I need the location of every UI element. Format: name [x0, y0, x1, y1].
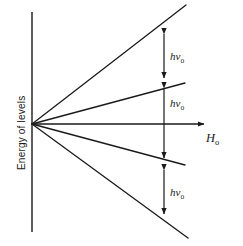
level-line-shallow-down	[32, 124, 185, 165]
gap-label-middle: hνo	[170, 97, 184, 112]
level-line-steep-up	[32, 5, 186, 124]
diagram-canvas: Energy of levels Ho hνo hνo hνo	[0, 0, 243, 246]
level-line-shallow-up	[32, 83, 185, 124]
zeeman-splitting-diagram: Energy of levels Ho hνo hνo hνo	[0, 0, 243, 246]
gap-label-middle-subscript: o	[180, 103, 184, 112]
y-axis-label: Energy of levels	[16, 96, 27, 170]
gap-label-lower: hνo	[170, 186, 184, 201]
x-axis-label-subscript: o	[215, 137, 219, 147]
gap-label-upper: hνo	[170, 50, 184, 65]
gap-label-upper-symbol: hν	[170, 50, 181, 62]
gap-label-upper-subscript: o	[180, 56, 184, 65]
gap-label-middle-symbol: hν	[170, 97, 181, 109]
x-axis-label: Ho	[205, 131, 219, 147]
gap-label-lower-subscript: o	[180, 192, 184, 201]
gap-label-lower-symbol: hν	[170, 186, 181, 198]
